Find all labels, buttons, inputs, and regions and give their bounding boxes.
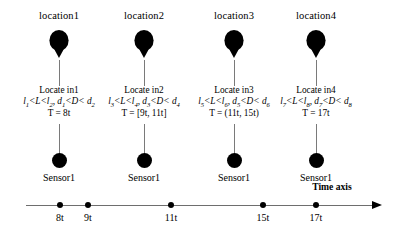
- locate-info-constraints: l1<L<l2, d1<D< d2: [23, 96, 95, 107]
- sensor-node-icon: [137, 153, 152, 168]
- axis-tick-dot: [85, 202, 91, 208]
- axis-caption: Time axis: [312, 181, 352, 192]
- balloon-marker-icon: [131, 28, 157, 62]
- location-label: location2: [124, 10, 164, 21]
- locate-info-time: T = 8t: [23, 108, 95, 119]
- locate-info-time: T = (11t, 15t): [198, 108, 270, 119]
- locate-info-line1: Locate in3: [198, 85, 270, 96]
- sensor-node-icon: [227, 153, 242, 168]
- balloon-marker-icon: [221, 28, 247, 62]
- balloon-string: [234, 60, 235, 86]
- sensor-node-icon: [309, 153, 324, 168]
- locate-info-constraints: l3<L<l4, d3<D< d4: [108, 96, 180, 107]
- axis-tick-label: 11t: [165, 212, 177, 223]
- locate-info-line1: Locate in4: [280, 85, 352, 96]
- balloon-string: [316, 60, 317, 86]
- sensor-label: Sensor1: [218, 172, 250, 183]
- balloon-marker-icon: [46, 28, 72, 62]
- axis-tick-dot: [57, 202, 63, 208]
- locate-info-time: T = 17t: [280, 108, 352, 119]
- sensor-connector: [59, 124, 60, 154]
- sensor-label: Sensor1: [128, 172, 160, 183]
- location-label: location1: [39, 10, 79, 21]
- locate-info-block: Locate in2 l3<L<l4, d3<D< d4 T = [9t, 11…: [108, 85, 180, 119]
- sensor-connector: [316, 124, 317, 154]
- locate-info-constraints: l5<L<l6, d5<D< d6: [198, 96, 270, 107]
- balloon-string: [59, 60, 60, 86]
- axis-tick-label: 9t: [84, 212, 92, 223]
- axis-line: [26, 205, 372, 206]
- locate-info-line1: Locate in2: [108, 85, 180, 96]
- locate-info-block: Locate in1 l1<L<l2, d1<D< d2 T = 8t: [23, 85, 95, 119]
- sensor-connector: [234, 124, 235, 154]
- axis-tick-dot: [313, 202, 319, 208]
- location-label: location4: [296, 10, 336, 21]
- locate-info-line1: Locate in1: [23, 85, 95, 96]
- axis-arrowhead-icon: [372, 201, 382, 209]
- location-label: location3: [214, 10, 254, 21]
- sensor-connector: [144, 124, 145, 154]
- locate-info-block: Locate in3 l5<L<l6, d5<D< d6 T = (11t, 1…: [198, 85, 270, 119]
- axis-tick-dot: [260, 202, 266, 208]
- axis-tick-dot: [168, 202, 174, 208]
- axis-tick-label: 17t: [310, 212, 323, 223]
- locate-info-constraints: l7<L<l8, d7<D< d8: [280, 96, 352, 107]
- timeline-location-diagram: location1 Locate in1 l1<L<l2, d1<D< d2 T…: [0, 0, 394, 234]
- axis-tick-label: 8t: [56, 212, 64, 223]
- balloon-string: [144, 60, 145, 86]
- axis-tick-label: 15t: [257, 212, 270, 223]
- locate-info-time: T = [9t, 11t]: [108, 108, 180, 119]
- balloon-marker-icon: [303, 28, 329, 62]
- sensor-node-icon: [52, 153, 67, 168]
- locate-info-block: Locate in4 l7<L<l8, d7<D< d8 T = 17t: [280, 85, 352, 119]
- sensor-label: Sensor1: [43, 172, 75, 183]
